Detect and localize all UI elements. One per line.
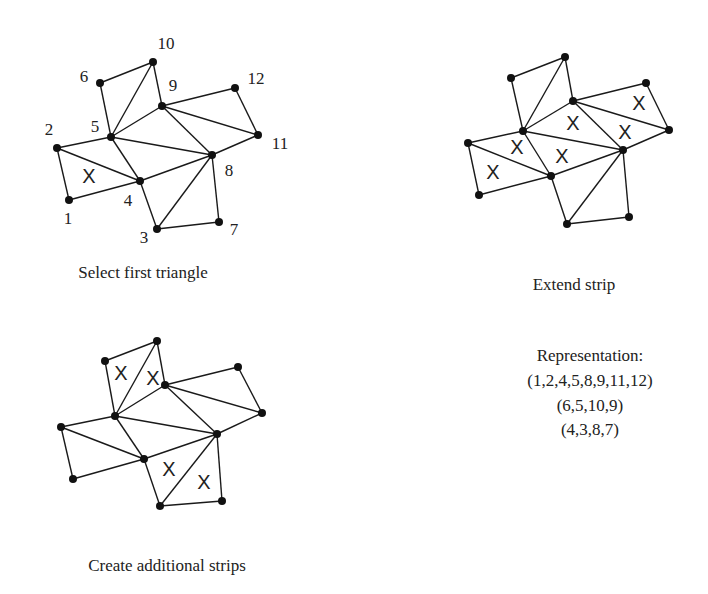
edge-5-6 [511,78,523,131]
panel-caption: Select first triangle [78,263,207,282]
strip-1: (1,2,4,5,8,9,11,12) [527,371,652,390]
edge-7-8 [212,155,219,222]
panel-caption: Extend strip [533,275,616,294]
vertex-4 [136,177,144,185]
vertex-5 [111,412,119,420]
edge-3-8 [567,150,623,224]
edge-11-8 [212,135,258,155]
edge-3-8 [157,155,212,229]
vertex-11 [665,126,673,134]
edge-6-10 [511,57,565,78]
panel-select-first-triangle: 123456789101112XSelect first triangle [45,34,288,282]
vertex-2 [53,144,61,152]
vertex-8 [213,430,221,438]
edge-3-7 [157,222,219,229]
vertex-label-9: 9 [169,76,178,95]
edge-5-10 [111,62,153,137]
edge-3-7 [567,217,629,224]
vertex-label-7: 7 [230,220,239,239]
edge-1-2 [57,148,69,200]
edge-4-5 [115,416,144,459]
representation-block: Representation: (1,2,4,5,8,9,11,12) (6,5… [527,346,652,439]
vertex-label-10: 10 [158,34,175,53]
panel-caption: Create additional strips [88,556,246,575]
edge-6-10 [100,62,153,83]
vertex-9 [161,381,169,389]
edge-6-10 [105,341,157,361]
edge-4-3 [551,176,567,224]
vertex-12 [234,363,242,371]
selected-triangle-mark: X [555,145,568,167]
vertex-7 [218,497,226,505]
selected-triangle-mark: X [486,161,499,183]
vertex-label-11: 11 [272,134,288,153]
vertex-11 [258,409,266,417]
vertex-6 [101,357,109,365]
edge-4-8 [140,155,212,181]
vertex-label-12: 12 [248,69,265,88]
vertex-1 [69,475,77,483]
edge-5-9 [111,106,162,137]
vertex-12 [642,79,650,87]
edge-4-5 [523,131,551,176]
vertex-10 [561,53,569,61]
panel-create-additional-strips: XXXXCreate additional strips [57,337,266,575]
vertex-11 [254,131,262,139]
edge-9-12 [165,367,238,385]
strip-2: (6,5,10,9) [557,396,624,415]
selected-triangle-mark: X [632,92,645,114]
edge-12-11 [235,88,258,135]
vertex-7 [215,218,223,226]
vertex-4 [140,455,148,463]
edge-5-10 [523,57,565,131]
panel-extend-strip: XXXXXXExtend strip [464,53,673,294]
representation-title: Representation: [537,346,644,365]
vertex-8 [619,146,627,154]
edge-11-8 [217,413,262,434]
selected-triangle-mark: X [114,362,127,384]
vertex-label-5: 5 [91,117,100,136]
vertex-label-6: 6 [80,67,89,86]
vertex-6 [507,74,515,82]
vertex-1 [65,196,73,204]
vertex-label-3: 3 [140,228,149,247]
vertex-3 [156,502,164,510]
selected-triangle-mark: X [162,458,175,480]
vertex-6 [96,79,104,87]
selected-triangle-mark: X [618,121,631,143]
edge-4-5 [111,137,140,181]
edge-2-4 [61,427,144,459]
edge-7-8 [217,434,222,501]
edge-10-9 [565,57,573,101]
edge-7-8 [623,150,629,217]
vertex-8 [208,151,216,159]
edge-2-5 [57,137,111,148]
vertex-3 [563,220,571,228]
vertex-12 [231,84,239,92]
edge-5-9 [115,385,165,416]
edge-12-11 [238,367,262,413]
vertex-7 [625,213,633,221]
edge-2-4 [57,148,140,181]
vertex-9 [158,102,166,110]
selected-triangle-mark: X [197,471,210,493]
edge-12-11 [646,83,669,130]
edge-5-6 [100,83,111,137]
edge-2-5 [61,416,115,427]
selected-triangle-mark: X [510,136,523,158]
edge-4-3 [144,459,160,506]
vertex-label-1: 1 [64,209,73,228]
edge-1-2 [61,427,73,479]
edge-10-9 [153,62,162,106]
vertex-label-4: 4 [124,191,133,210]
vertex-5 [519,127,527,135]
vertex-label-2: 2 [45,120,54,139]
vertex-2 [57,423,65,431]
vertex-5 [107,133,115,141]
edge-4-3 [140,181,157,229]
selected-triangle-mark: X [566,112,579,134]
edge-4-8 [144,434,217,459]
vertex-3 [153,225,161,233]
vertex-2 [464,139,472,147]
selected-triangle-mark: X [82,165,95,187]
